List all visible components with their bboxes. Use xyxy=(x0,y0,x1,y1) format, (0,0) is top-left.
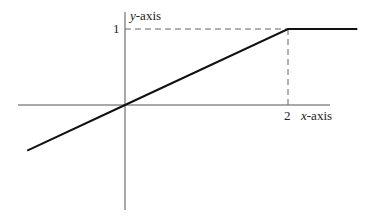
y-axis-label: y-axis xyxy=(128,8,161,23)
x-tick-label: 2 xyxy=(284,108,291,123)
x-axis-label: x-axis xyxy=(300,108,332,123)
function-line xyxy=(27,29,357,151)
function-graph: y-axis 1 2 x-axis xyxy=(0,0,378,220)
y-tick-label: 1 xyxy=(113,21,120,36)
